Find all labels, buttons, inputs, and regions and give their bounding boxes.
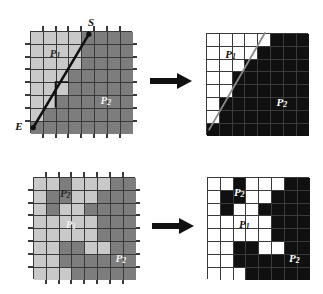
grid-cell bbox=[208, 216, 221, 229]
grid-cell bbox=[34, 255, 47, 268]
grid-cell bbox=[34, 229, 47, 242]
line-segment bbox=[209, 33, 265, 130]
segment-end-label: E bbox=[15, 121, 22, 132]
grid-cell bbox=[221, 255, 234, 268]
grid-cell bbox=[98, 204, 111, 217]
region-label-letter: P bbox=[289, 252, 296, 264]
grid-cell bbox=[47, 204, 60, 217]
grid-cell bbox=[72, 268, 85, 281]
grid-cell bbox=[221, 204, 234, 217]
grid-cell bbox=[47, 229, 60, 242]
grid-cell bbox=[221, 216, 234, 229]
region-label-subscript: 2 bbox=[67, 191, 71, 200]
grid-cell bbox=[298, 268, 311, 281]
grid-cell bbox=[47, 178, 60, 191]
grid-cell bbox=[98, 191, 111, 204]
arrow-shaft bbox=[150, 78, 177, 84]
grid-cell bbox=[208, 178, 221, 191]
grid-cell bbox=[208, 204, 221, 217]
grid-cell bbox=[124, 178, 137, 191]
grid-cell bbox=[221, 178, 234, 191]
grid-cell bbox=[85, 204, 98, 217]
grid-cell bbox=[98, 178, 111, 191]
grid-cell bbox=[85, 216, 98, 229]
grid-cell bbox=[246, 204, 259, 217]
grid-cell bbox=[221, 229, 234, 242]
region-label-subscript: 1 bbox=[246, 222, 250, 231]
rasterized-line-segment-grid: P1P2 bbox=[206, 33, 308, 135]
arrow-head bbox=[177, 73, 192, 89]
line-segment-overlay bbox=[206, 33, 308, 135]
grid-cell bbox=[208, 191, 221, 204]
grid-cell bbox=[259, 255, 272, 268]
grid-cell bbox=[34, 216, 47, 229]
grid-cell bbox=[285, 229, 298, 242]
region-label-p2-bottom: P2 bbox=[116, 253, 127, 265]
grid-cell bbox=[298, 178, 311, 191]
grid-cell bbox=[208, 255, 221, 268]
grid-cell bbox=[221, 191, 234, 204]
region-label-p1: P1 bbox=[239, 219, 250, 231]
grid-cell bbox=[47, 242, 60, 255]
region-label-p2-top: P2 bbox=[60, 188, 71, 200]
grid-cell bbox=[208, 242, 221, 255]
region-label-subscript: 2 bbox=[122, 256, 126, 265]
region-label-p2-bottom: P2 bbox=[289, 253, 300, 265]
grid-cell bbox=[234, 229, 247, 242]
grid-cell bbox=[72, 178, 85, 191]
grid-cell bbox=[72, 255, 85, 268]
region-label-subscript: 2 bbox=[241, 191, 245, 200]
region-label-subscript: 1 bbox=[72, 223, 76, 232]
grid-cell bbox=[208, 229, 221, 242]
arrow-head bbox=[179, 218, 194, 234]
grid-cell bbox=[124, 229, 137, 242]
arrow-right-icon bbox=[150, 72, 192, 90]
grid-cell bbox=[85, 268, 98, 281]
grid-cell bbox=[34, 204, 47, 217]
grid-cell bbox=[124, 204, 137, 217]
grid-cell bbox=[221, 242, 234, 255]
grid-cell bbox=[259, 242, 272, 255]
grid-cell bbox=[272, 268, 285, 281]
grid-cell bbox=[246, 191, 259, 204]
grid-cell bbox=[259, 204, 272, 217]
grid-cell bbox=[124, 191, 137, 204]
grid-cell bbox=[285, 216, 298, 229]
endpoint-S bbox=[86, 32, 91, 37]
grid-cell bbox=[208, 268, 221, 281]
region-label-letter: P bbox=[60, 187, 67, 199]
grid-cell bbox=[85, 191, 98, 204]
grid-cell bbox=[111, 216, 124, 229]
grid-cell bbox=[47, 255, 60, 268]
grid-cell bbox=[85, 242, 98, 255]
grid-cell bbox=[298, 216, 311, 229]
figure-root: P1P2SEP1P2P2P1P2P2P1P2 bbox=[0, 0, 323, 294]
grid-cell bbox=[272, 216, 285, 229]
grid-cell bbox=[72, 242, 85, 255]
grid-cell bbox=[98, 216, 111, 229]
grid-cell bbox=[285, 191, 298, 204]
grid-cell bbox=[72, 204, 85, 217]
grid-cell bbox=[111, 178, 124, 191]
grid-cell bbox=[60, 242, 73, 255]
grid-cell bbox=[221, 268, 234, 281]
segment-start-label: S bbox=[88, 17, 94, 28]
grid-cell bbox=[60, 204, 73, 217]
grid-cell bbox=[234, 255, 247, 268]
grid-cell bbox=[298, 204, 311, 217]
grid-cell bbox=[246, 229, 259, 242]
grid-cell bbox=[272, 229, 285, 242]
grid-cell bbox=[272, 191, 285, 204]
grid-cell bbox=[98, 255, 111, 268]
grid-cell bbox=[111, 229, 124, 242]
grid-cell bbox=[259, 229, 272, 242]
grid-cell bbox=[234, 242, 247, 255]
grid-cell bbox=[234, 204, 247, 217]
grid-cell bbox=[285, 204, 298, 217]
grid-cell bbox=[298, 191, 311, 204]
grid-cell bbox=[98, 268, 111, 281]
grid-cell bbox=[34, 191, 47, 204]
region-label-letter: P bbox=[234, 186, 241, 198]
grid-cell bbox=[47, 191, 60, 204]
grid-cell bbox=[60, 268, 73, 281]
